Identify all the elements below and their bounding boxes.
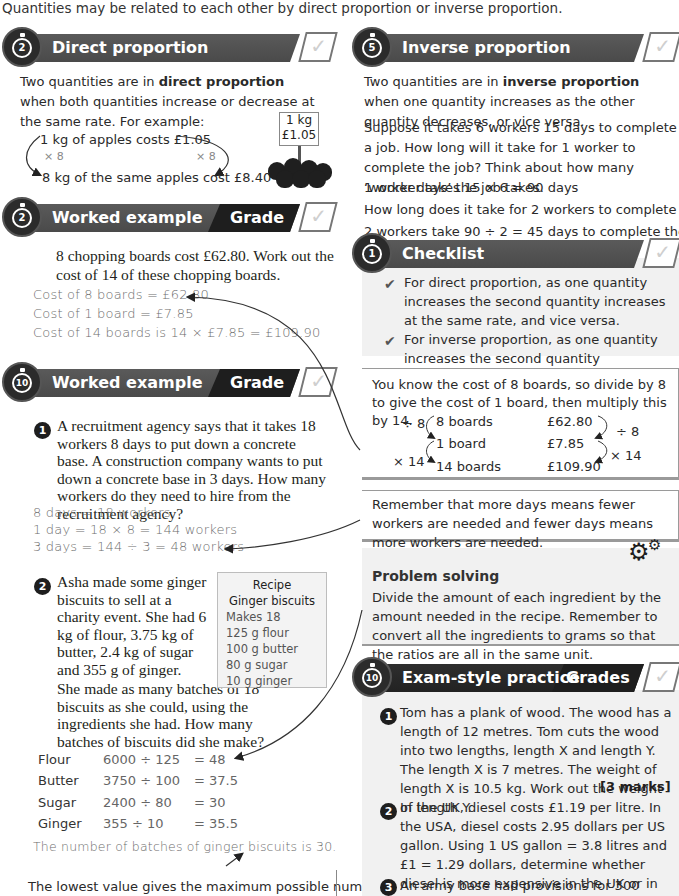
- tick-box-icon[interactable]: ✓: [642, 238, 679, 268]
- stopwatch-icon: 1: [352, 233, 392, 273]
- exam-practice-header: Grades 5–6 Exam-style practice 10 ✓: [352, 660, 678, 690]
- price-14-boards: £109.90: [547, 457, 601, 477]
- worked-example-1-steps: Cost of 8 boards = £62.80 Cost of 1 boar…: [33, 285, 320, 342]
- worked-example-2-q2-part1: Asha made some ginger biscuits to sell a…: [57, 573, 207, 678]
- section-title: Worked example: [52, 369, 202, 397]
- exam-question-number-3: 3: [380, 876, 397, 896]
- table-row: Sugar2400 ÷ 80= 30: [38, 795, 226, 810]
- recipe-card: Recipe Ginger biscuits Makes 18 125 g fl…: [217, 572, 327, 688]
- op-multiply-left: × 14: [393, 452, 425, 472]
- question-number-2: 2: [34, 575, 51, 595]
- batches-conclusion: The number of batches of ginger biscuits…: [33, 839, 337, 854]
- checklist-item-1: For direct proportion, as one quantity i…: [404, 273, 674, 330]
- stopwatch-icon: 10: [2, 362, 42, 402]
- check-circle-icon: ✔: [384, 333, 396, 349]
- note-box-edge: [336, 870, 337, 896]
- inverse-proportion-header: Inverse proportion 5 ✓: [352, 30, 678, 60]
- price-8-boards: £62.80: [547, 412, 593, 432]
- tick-box-icon[interactable]: ✓: [298, 32, 337, 62]
- question-number-1: 1: [34, 419, 51, 439]
- grade-badge: Grade 5: [208, 204, 300, 232]
- multiplier-left: × 8: [44, 150, 64, 163]
- item-1-board: 1 board: [436, 434, 486, 454]
- table-row: Butter3750 ÷ 100= 37.5: [38, 773, 238, 788]
- table-row: Flour6000 ÷ 125= 48: [38, 752, 226, 767]
- apples-line-2: 8 kg of the same apples cost £8.40: [42, 168, 271, 188]
- stopwatch-icon: 10: [352, 657, 392, 697]
- tick-box-icon[interactable]: ✓: [298, 202, 337, 232]
- inverse-line-3: 1 worker takes 15 × 6 = 90 days: [364, 178, 578, 198]
- stopwatch-icon: 2: [2, 197, 42, 237]
- problem-solving-text: Divide the amount of each ingredient by …: [372, 588, 676, 664]
- exam-question-number-2: 2: [380, 800, 397, 820]
- check-circle-icon: ✔: [384, 276, 396, 292]
- tick-box-icon[interactable]: ✓: [298, 367, 337, 397]
- op-divide-left: ÷ 8: [402, 414, 425, 434]
- checklist-header: Checklist 1 ✓: [352, 236, 678, 266]
- grade-badge: Grade 5: [208, 369, 300, 397]
- apples-line-1: 1 kg of apples costs £1.05: [40, 130, 211, 150]
- direct-definition: Two quantities are in direct proportion …: [20, 72, 320, 132]
- exam-question-3: An army base had provisions for 300 sold…: [400, 876, 676, 896]
- gears-icon-small: ⚙: [648, 538, 661, 553]
- worked-example-2-q2-part2: She made as many batches of 18 biscuits …: [57, 680, 277, 750]
- worked-example-1-question: 8 chopping boards cost £62.80. Work out …: [56, 247, 336, 284]
- lowest-value-note: The lowest value gives the maximum possi…: [28, 877, 384, 896]
- direct-proportion-header: Direct proportion 2 ✓: [2, 30, 338, 60]
- section-title: Exam-style practice: [402, 664, 580, 692]
- section-title: Inverse proportion: [402, 34, 571, 62]
- section-title: Direct proportion: [52, 34, 208, 62]
- worked-example-2-header: Grade 5 Worked example 10 ✓: [2, 365, 338, 395]
- worked-example-2-q1-steps: 8 days = 18 workers 1 day = 18 × 8 = 144…: [33, 504, 244, 555]
- tick-box-icon[interactable]: ✓: [642, 662, 679, 692]
- op-multiply-right: × 14: [610, 446, 642, 466]
- inverse-line-4: How long does it take for 2 workers to c…: [364, 200, 679, 220]
- intro-text: Quantities may be related to each other …: [2, 0, 562, 16]
- table-row: Ginger355 ÷ 10= 35.5: [38, 816, 238, 831]
- gears-icon: ⚙: [628, 540, 650, 564]
- price-sign: 1 kg £1.05: [279, 112, 319, 146]
- stopwatch-icon: 2: [2, 27, 42, 67]
- price-1-board: £7.85: [547, 434, 584, 454]
- problem-solving-title: Problem solving: [372, 568, 499, 584]
- section-title: Checklist: [402, 240, 484, 268]
- exam-question-number-1: 1: [380, 705, 397, 725]
- tick-box-icon[interactable]: ✓: [642, 32, 679, 62]
- item-14-boards: 14 boards: [436, 457, 501, 477]
- multiplier-right: × 8: [196, 150, 216, 163]
- section-title: Worked example: [52, 204, 202, 232]
- exam-question-1-marks: [3 marks]: [600, 779, 671, 794]
- worked-example-1-header: Grade 5 Worked example 2 ✓: [2, 200, 338, 230]
- stopwatch-icon: 5: [352, 27, 392, 67]
- item-8-boards: 8 boards: [436, 412, 493, 432]
- op-divide-right: ÷ 8: [616, 422, 639, 442]
